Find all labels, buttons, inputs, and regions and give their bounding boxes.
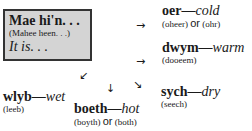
arrow-right-icon: →	[136, 56, 145, 67]
phrase-welsh: Mae hi'n. . .	[9, 13, 86, 28]
phrase-translation: It is. . .	[9, 39, 86, 54]
arrow-down-left-icon: ↙	[79, 70, 88, 81]
phrase-pronunciation: (Mahee heen. . .)	[9, 28, 86, 39]
entry-warm: dwym—warm (dooeem)	[162, 40, 244, 66]
arrow-down-icon: ↓	[106, 83, 115, 94]
arrow-right-icon: →	[136, 20, 145, 31]
arrow-down-right-icon: ↘	[133, 79, 142, 90]
entry-wet: wlyb—wet (leeb)	[3, 89, 65, 115]
entry-hot: boeth—hot (boyth) or (both)	[74, 101, 139, 128]
entry-cold: oer—cold (oheer) or (ohr)	[162, 3, 220, 30]
entry-dry: sych—dry (seech)	[161, 84, 220, 110]
phrase-box: Mae hi'n. . . (Mahee heen. . .) It is. .…	[3, 9, 92, 61]
